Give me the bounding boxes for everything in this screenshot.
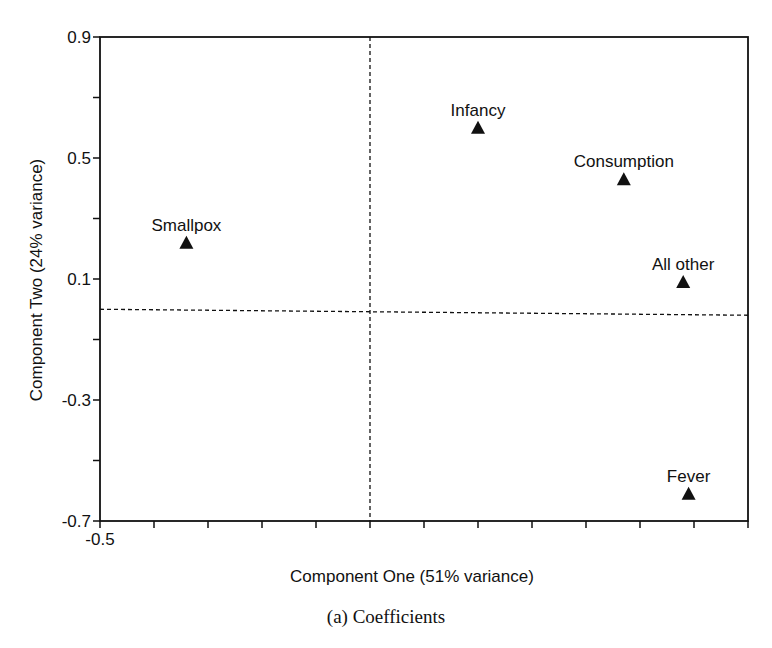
y-tick-label: 0.1	[67, 270, 91, 289]
y-axis-title: Component Two (24% variance)	[27, 159, 46, 402]
triangle-marker-icon	[179, 236, 193, 249]
y-tick-label: -0.7	[62, 512, 91, 531]
data-point: Fever	[667, 467, 711, 500]
data-points: SmallpoxInfancyConsumptionAll otherFever	[151, 101, 714, 500]
data-point: Infancy	[451, 101, 506, 134]
reference-lines	[100, 37, 748, 521]
triangle-marker-icon	[471, 121, 485, 134]
triangle-marker-icon	[682, 487, 696, 500]
point-label: Fever	[667, 467, 711, 486]
triangle-marker-icon	[676, 275, 690, 288]
scatter-chart: 0.90.50.1-0.3-0.7-0.5 SmallpoxInfancyCon…	[0, 0, 772, 648]
x-tick-label: -0.5	[85, 530, 114, 549]
point-label: Smallpox	[151, 216, 221, 235]
figure-caption: (a) Coefficients	[0, 606, 772, 628]
x-axis-title: Component One (51% variance)	[290, 567, 534, 586]
plot-border	[100, 37, 748, 521]
horizontal-zero-line	[100, 309, 748, 315]
y-tick-label: 0.9	[67, 28, 91, 47]
data-point: All other	[652, 255, 715, 288]
data-point: Smallpox	[151, 216, 221, 249]
point-label: Consumption	[574, 152, 674, 171]
data-point: Consumption	[574, 152, 674, 185]
y-tick-label: 0.5	[67, 149, 91, 168]
point-label: All other	[652, 255, 715, 274]
plot-frame	[100, 37, 748, 521]
point-label: Infancy	[451, 101, 506, 120]
y-tick-label: -0.3	[62, 391, 91, 410]
triangle-marker-icon	[617, 172, 631, 185]
axis-ticks: 0.90.50.1-0.3-0.7-0.5	[62, 28, 748, 549]
